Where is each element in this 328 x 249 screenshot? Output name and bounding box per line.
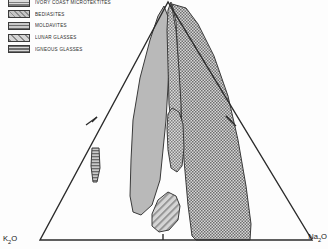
swatch-ivory-coast-microtektites: [8, 0, 30, 7]
field-lunar-glasses: [152, 192, 180, 232]
legend-item-ivory-coast-microtektites: IVORY COAST MICROTEKTITES: [8, 0, 138, 9]
legend-item-bediasites: BEDIASITES: [8, 9, 138, 21]
vertex-label-na2o-main: Na: [308, 232, 318, 241]
field-igneous-glasses: [172, 4, 251, 240]
legend-item-moldavites: MOLDAVITES: [8, 20, 138, 32]
legend: IVORY COAST MICROTEKTITES BEDIASITES MOL…: [8, 0, 138, 55]
legend-label-bediasites: BEDIASITES: [35, 11, 65, 17]
legend-item-igneous-glasses: IGNEOUS GLASSES: [8, 43, 138, 55]
legend-item-lunar-glasses: LUNAR GLASSES: [8, 32, 138, 44]
legend-label-ivory-coast-microtektites: IVORY COAST MICROTEKTITES: [35, 0, 111, 6]
axis-tick-left: [86, 117, 97, 125]
legend-label-lunar-glasses: LUNAR GLASSES: [35, 35, 77, 41]
swatch-moldavites: [8, 22, 30, 30]
vertex-label-k2o-tail: O: [11, 234, 17, 243]
legend-label-moldavites: MOLDAVITES: [35, 23, 67, 29]
swatch-igneous-glasses: [8, 45, 30, 53]
vertex-label-na2o-tail: O: [321, 232, 327, 241]
swatch-lunar-glasses: [8, 34, 30, 42]
vertex-label-k2o: K2O: [3, 234, 17, 245]
legend-label-igneous-glasses: IGNEOUS GLASSES: [35, 46, 83, 52]
vertex-label-na2o: Na2O: [308, 232, 327, 243]
ternary-diagram-figure: IVORY COAST MICROTEKTITES BEDIASITES MOL…: [0, 0, 328, 249]
swatch-bediasites: [8, 10, 30, 18]
field-moldavites: [91, 148, 100, 182]
